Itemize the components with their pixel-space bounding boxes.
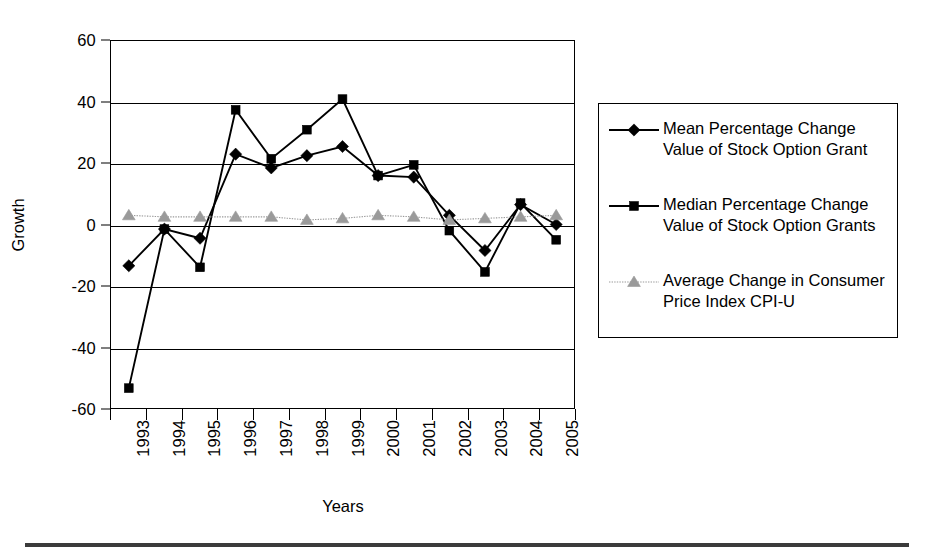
data-series bbox=[122, 209, 562, 224]
x-axis-tick-mark bbox=[468, 409, 469, 420]
x-axis-tick-mark bbox=[182, 409, 183, 420]
x-axis-tick-label: 1998 bbox=[314, 420, 331, 457]
y-axis-tick-mark bbox=[101, 286, 110, 287]
triangle-marker-icon bbox=[372, 209, 385, 219]
square-marker-icon bbox=[231, 105, 240, 114]
triangle-marker-icon bbox=[479, 212, 492, 222]
x-axis-tick-label: 1994 bbox=[171, 420, 188, 457]
y-axis: 6040200-20-40-60 bbox=[0, 40, 110, 409]
triangle-marker-icon bbox=[122, 209, 135, 219]
series-layer bbox=[111, 41, 574, 408]
x-axis-tick-label: 2004 bbox=[528, 420, 545, 457]
square-marker-icon bbox=[630, 202, 639, 211]
square-marker-icon bbox=[516, 199, 525, 208]
x-axis-tick-label: 2003 bbox=[493, 420, 510, 457]
square-marker-icon bbox=[267, 154, 276, 163]
y-axis-tick-label: 40 bbox=[77, 93, 96, 110]
triangle-marker-icon bbox=[407, 211, 420, 221]
x-axis-tick-label: 1993 bbox=[135, 420, 152, 457]
x-axis-tick-label: 1999 bbox=[350, 420, 367, 457]
legend-marker bbox=[607, 196, 661, 216]
x-axis-tick-mark bbox=[289, 409, 290, 420]
y-axis-tick-mark bbox=[101, 40, 110, 41]
legend-marker bbox=[607, 120, 661, 140]
legend-label: Mean Percentage Change Value of Stock Op… bbox=[663, 118, 867, 161]
y-axis-tick-mark bbox=[101, 163, 110, 164]
y-axis-tick-mark bbox=[101, 347, 110, 348]
triangle-marker-icon bbox=[194, 211, 207, 221]
x-axis-tick-mark bbox=[503, 409, 504, 420]
square-marker-icon bbox=[338, 95, 347, 104]
y-axis-tick-label: -60 bbox=[72, 401, 96, 418]
y-axis-tick-label: 20 bbox=[77, 155, 96, 172]
square-marker-icon bbox=[303, 125, 312, 134]
plot-area bbox=[110, 40, 575, 409]
x-axis-tick-mark bbox=[110, 409, 111, 420]
triangle-marker-icon bbox=[265, 211, 278, 221]
diamond-marker-icon bbox=[230, 148, 242, 160]
x-axis-tick-label: 1997 bbox=[278, 420, 295, 457]
x-axis-tick-mark bbox=[360, 409, 361, 420]
x-axis-tick-label: 1996 bbox=[242, 420, 259, 457]
chart-legend: Mean Percentage Change Value of Stock Op… bbox=[598, 103, 898, 338]
square-marker-icon bbox=[552, 235, 561, 244]
legend-item[interactable]: Median Percentage Change Value of Stock … bbox=[607, 194, 875, 237]
legend-item[interactable]: Average Change in Consumer Price Index C… bbox=[607, 270, 885, 313]
x-axis-tick-mark bbox=[396, 409, 397, 420]
x-axis-tick-mark bbox=[325, 409, 326, 420]
triangle-marker-icon bbox=[550, 209, 563, 219]
y-axis-tick-mark bbox=[101, 101, 110, 102]
legend-label: Average Change in Consumer Price Index C… bbox=[663, 270, 885, 313]
square-marker-icon bbox=[160, 225, 169, 234]
y-axis-tick-label: 0 bbox=[87, 216, 96, 233]
legend-label: Median Percentage Change Value of Stock … bbox=[663, 194, 875, 237]
square-marker-icon bbox=[374, 171, 383, 180]
y-axis-tick-label: -20 bbox=[72, 278, 96, 295]
data-series bbox=[123, 140, 563, 271]
series-line bbox=[129, 147, 556, 266]
x-axis-labels: 1993199419951996199719981999200020012002… bbox=[110, 420, 575, 492]
footer-rule bbox=[25, 543, 909, 547]
chart-figure: Growth 6040200-20-40-60 1993199419951996… bbox=[0, 0, 934, 558]
x-axis-tick-label: 1995 bbox=[206, 420, 223, 457]
y-axis-tick-mark bbox=[101, 224, 110, 225]
x-axis-tick-mark bbox=[575, 409, 576, 420]
x-axis-tick-mark bbox=[432, 409, 433, 420]
x-axis-title: Years bbox=[322, 497, 364, 516]
y-axis-tick-label: 60 bbox=[77, 32, 96, 49]
triangle-marker-icon bbox=[229, 211, 242, 221]
x-axis-tick-label: 2005 bbox=[564, 420, 581, 457]
triangle-marker-icon bbox=[628, 276, 641, 287]
diamond-marker-icon bbox=[628, 124, 640, 136]
y-axis-tick-mark bbox=[101, 409, 110, 410]
x-axis-tick-label: 2002 bbox=[457, 420, 474, 457]
x-axis-tick-mark bbox=[539, 409, 540, 420]
diamond-marker-icon bbox=[550, 218, 562, 230]
legend-marker bbox=[607, 272, 661, 292]
x-axis-tick-label: 2001 bbox=[421, 420, 438, 457]
x-axis-tick-label: 2000 bbox=[385, 420, 402, 457]
x-axis-tick-mark bbox=[146, 409, 147, 420]
diamond-marker-icon bbox=[194, 232, 206, 244]
square-marker-icon bbox=[409, 160, 418, 169]
data-series bbox=[124, 95, 560, 393]
triangle-marker-icon bbox=[158, 211, 171, 221]
diamond-marker-icon bbox=[301, 150, 313, 162]
square-marker-icon bbox=[196, 263, 205, 272]
x-axis-tick-mark bbox=[217, 409, 218, 420]
y-axis-tick-label: -40 bbox=[72, 339, 96, 356]
square-marker-icon bbox=[124, 384, 133, 393]
square-marker-icon bbox=[445, 226, 454, 235]
legend-item[interactable]: Mean Percentage Change Value of Stock Op… bbox=[607, 118, 867, 161]
diamond-marker-icon bbox=[265, 162, 277, 174]
x-axis-tick-mark bbox=[253, 409, 254, 420]
square-marker-icon bbox=[481, 268, 490, 277]
